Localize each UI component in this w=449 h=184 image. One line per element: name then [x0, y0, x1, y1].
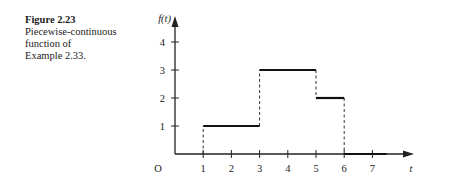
- y-axis-label: f(t): [158, 13, 171, 25]
- x-axis-arrow-icon: [403, 151, 414, 158]
- y-tick-label: 1: [160, 121, 165, 132]
- y-tick-label: 2: [160, 93, 165, 104]
- x-tick-label: 4: [285, 163, 291, 174]
- x-tick-label: 1: [201, 163, 206, 174]
- x-tick-label: 5: [313, 163, 318, 174]
- x-axis-label: t: [410, 163, 414, 174]
- x-tick-label: 7: [370, 163, 375, 174]
- x-tick-label: 3: [257, 163, 262, 174]
- y-axis-arrow-icon: [172, 16, 179, 27]
- origin-label: O: [154, 163, 162, 174]
- x-tick-label: 6: [342, 163, 347, 174]
- x-tick-label: 2: [229, 163, 234, 174]
- step-function-plot: 12345671234Otf(t): [0, 0, 449, 184]
- y-tick-label: 4: [160, 37, 166, 48]
- y-tick-label: 3: [160, 65, 165, 76]
